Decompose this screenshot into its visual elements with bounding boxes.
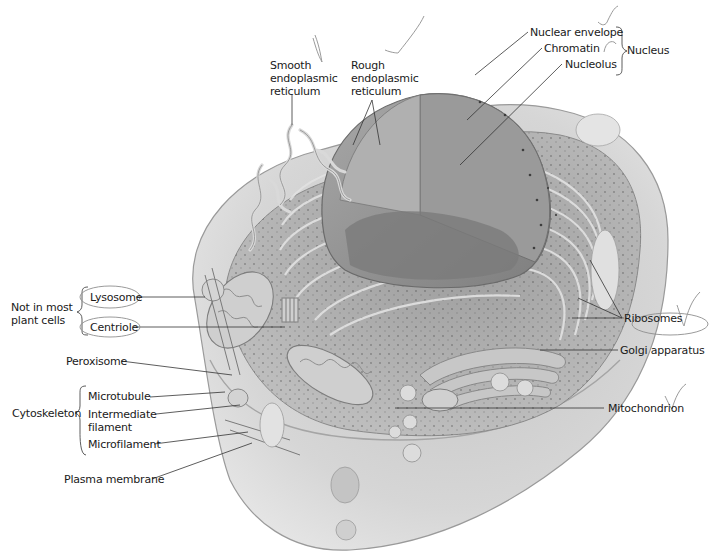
label-not-in-plant-cells: Not in most plant cells [11, 301, 83, 327]
cell-diagram: Smooth endoplasmic reticulum Rough endop… [0, 0, 711, 557]
label-plasma-membrane: Plasma membrane [64, 473, 164, 486]
label-chromatin: Chromatin [544, 42, 600, 55]
peroxisome-shape [228, 389, 248, 407]
label-ribosomes: Ribosomes [624, 312, 682, 325]
label-microfilament: Microfilament [88, 438, 161, 451]
label-rough-er: Rough endoplasmic reticulum [351, 59, 431, 98]
lysosome-shape [202, 279, 224, 301]
label-cytoskeleton: Cytoskeleton [12, 407, 81, 420]
label-nucleolus: Nucleolus [565, 58, 617, 71]
label-not-in-plant-line2: plant cells [11, 314, 83, 327]
label-rough-er-line1: Rough [351, 59, 431, 72]
label-smooth-er: Smooth endoplasmic reticulum [270, 59, 350, 98]
label-intermediate-filament-line2: filament [88, 421, 168, 434]
label-nucleus: Nucleus [627, 44, 669, 57]
label-rough-er-line2: endoplasmic [351, 72, 431, 85]
brace-cytoskeleton [75, 386, 86, 455]
label-peroxisome: Peroxisome [66, 355, 127, 368]
label-golgi-apparatus: Golgi apparatus [620, 344, 705, 357]
label-rough-er-line3: reticulum [351, 85, 431, 98]
label-smooth-er-line2: endoplasmic [270, 72, 350, 85]
label-lysosome: Lysosome [90, 291, 142, 304]
centriole-shape [282, 298, 298, 322]
label-smooth-er-line1: Smooth [270, 59, 350, 72]
label-smooth-er-line3: reticulum [270, 85, 350, 98]
label-microtubule: Microtubule [88, 390, 150, 403]
label-intermediate-filament: Intermediate filament [88, 408, 168, 434]
label-not-in-plant-line1: Not in most [11, 301, 83, 314]
label-mitochondrion: Mitochondrion [608, 402, 684, 415]
label-centriole: Centriole [90, 321, 138, 334]
label-intermediate-filament-line1: Intermediate [88, 408, 168, 421]
label-nuclear-envelope: Nuclear envelope [530, 26, 623, 39]
